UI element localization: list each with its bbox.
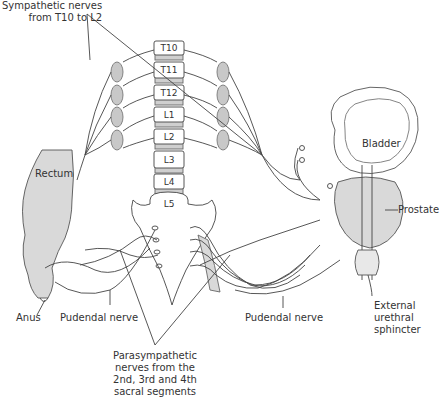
parasympathetic-label: Parasympathetic nerves from the 2nd, 3rd… xyxy=(105,350,205,398)
bladder-label: Bladder xyxy=(362,138,401,150)
vertebra-t10-label: T10 xyxy=(154,42,184,54)
vertebra-l3-label: L3 xyxy=(154,154,184,166)
external-sphincter-label: External urethral sphincter xyxy=(374,300,421,336)
pelvic-splanchnic-fill xyxy=(198,235,220,292)
vertebra-t11-label: T11 xyxy=(154,64,184,76)
right-sympathetic-nerves xyxy=(229,72,320,200)
vertebra-l1-label: L1 xyxy=(154,109,184,121)
left-sympathetic-nerves xyxy=(77,72,111,180)
vertebra-t12-label: T12 xyxy=(154,87,184,99)
anus-label: Anus xyxy=(16,312,41,324)
pudendal-nerve-right-label: Pudendal nerve xyxy=(245,312,323,324)
rectum-label: Rectum xyxy=(35,168,73,180)
external-urethral-sphincter xyxy=(355,250,379,275)
prostate-label: Prostate xyxy=(398,204,439,216)
vertebra-l4-label: L4 xyxy=(154,176,184,188)
vertebra-l2-label: L2 xyxy=(154,131,184,143)
vertebra-l5-label: L5 xyxy=(154,198,184,210)
pudendal-nerve-left-label: Pudendal nerve xyxy=(60,312,138,324)
sphincter-pointer xyxy=(368,275,372,296)
sympathetic-label: Sympathetic nerves from T10 to L2 xyxy=(2,0,102,24)
bladder-ganglia xyxy=(294,146,332,201)
prostate xyxy=(334,177,403,248)
